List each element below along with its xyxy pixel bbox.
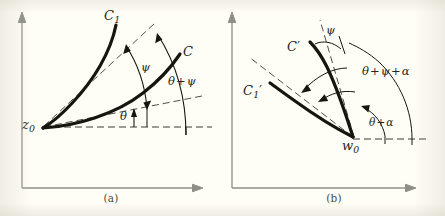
arc-psi-a [123, 44, 151, 110]
label-tpa-op-b: + [376, 116, 385, 128]
y-axis-arrowhead-a [18, 12, 25, 23]
x-axis-arrowhead-b [406, 184, 417, 191]
label-tpa-theta-b: θ [369, 116, 375, 128]
label-angle-theta-plus-psi-plus-alpha-b: θ+ψ+α [362, 66, 410, 78]
label-z0-sub-a: 0 [29, 123, 35, 134]
label-c1p-base-b: C [243, 83, 253, 98]
x-axis-arrowhead-a [193, 184, 204, 191]
label-z0-base-a: z [22, 117, 29, 132]
arc-theta-alpha-arrowhead-b [361, 105, 370, 113]
label-curve-c1-prime-b: C1′ [243, 84, 262, 99]
panel-b: C1′ C′ w0 ψ θ+α θ+ψ+α (b) [223, 0, 445, 216]
label-cp-base-b: C [287, 39, 297, 54]
label-c-base-a: C [183, 44, 193, 59]
arc-inner-2-arrowhead-b [318, 94, 328, 102]
label-tpsa-alpha-b: α [402, 64, 410, 78]
curve-cp-b [310, 42, 353, 137]
figure-root: C1 C z0 θ ψ θ+ψ (a) [0, 0, 445, 216]
label-angle-theta-a: θ [120, 111, 127, 123]
label-tp-psi-a: ψ [187, 74, 196, 88]
label-cp-prime-b: ′ [297, 40, 300, 54]
theta-marker-a [131, 108, 137, 127]
label-angle-psi-b: ψ [326, 25, 335, 37]
label-psi-glyph-b: ψ [326, 23, 335, 37]
label-c1-sub-a: 1 [114, 14, 120, 25]
axes-b [228, 12, 416, 192]
label-psi-glyph-a: ψ [141, 60, 150, 74]
label-angle-theta-plus-alpha-b: θ+α [369, 117, 393, 128]
panel-a-graphics [0, 0, 222, 216]
label-tpsa-theta-b: θ [362, 64, 369, 78]
curve-c-a [43, 54, 180, 128]
panel-a: C1 C z0 θ ψ θ+ψ (a) [0, 0, 222, 216]
label-curve-c-prime-b: C′ [287, 40, 300, 53]
arc-c1p-arrowhead-b [301, 84, 311, 93]
label-point-w0-b: w0 [342, 139, 359, 154]
tangent-ray-c1-a [44, 23, 155, 126]
arc-psi-tick-b [339, 36, 345, 54]
arc-theta-plus-psi-arrowhead-a [155, 33, 162, 43]
label-w0-base-b: w [342, 138, 353, 153]
label-point-z0-a: z0 [22, 118, 35, 133]
label-theta-glyph-a: θ [120, 109, 127, 123]
label-tpsa-psi-b: ψ [381, 64, 390, 78]
label-c1p-prime-b: ′ [259, 84, 262, 98]
label-angle-theta-plus-psi-a: θ+ψ [168, 76, 196, 88]
label-c1-base-a: C [104, 8, 114, 23]
label-tpsa-op2-b: + [391, 64, 401, 78]
label-curve-c1-a: C1 [104, 9, 120, 24]
caption-a: (a) [0, 192, 222, 204]
label-tpsa-op1-b: + [370, 64, 380, 78]
label-tp-theta-a: θ [168, 74, 175, 88]
label-w0-sub-b: 0 [353, 144, 359, 155]
arc-inner-2-b [318, 91, 355, 102]
caption-b: (b) [223, 192, 445, 204]
label-angle-psi-a: ψ [141, 62, 150, 74]
label-tp-op-a: + [176, 74, 186, 88]
label-curve-c-a: C [183, 45, 193, 58]
label-tpa-alpha-b: α [386, 116, 393, 128]
y-axis-arrowhead-b [228, 12, 235, 23]
